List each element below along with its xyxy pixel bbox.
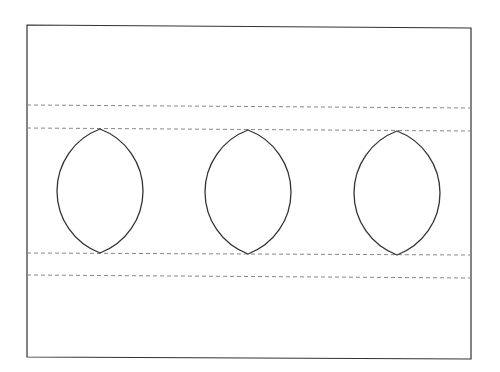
lens-shape-1 (57, 129, 143, 253)
lenses (57, 129, 440, 255)
lens-shape-2 (205, 130, 291, 254)
lens-diagram (0, 0, 500, 372)
lens-shape-3 (354, 131, 440, 255)
diagram-frame (27, 25, 471, 359)
dashed-line-1 (27, 105, 471, 108)
dashed-line-4 (27, 275, 471, 278)
